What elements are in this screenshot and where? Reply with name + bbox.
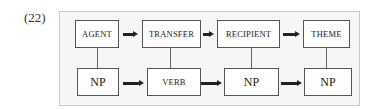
agent-label: AGENT: [82, 29, 112, 39]
arrow-right-icon: [201, 81, 222, 85]
theme-label: THEME: [311, 29, 341, 39]
transfer-label: TRANSFER: [149, 29, 194, 39]
np-box-1: NP: [77, 68, 119, 96]
np-box-3: NP: [304, 68, 352, 96]
connector-agent-np: [97, 48, 98, 68]
np-label-1: NP: [90, 75, 106, 90]
connector-recipient-np: [251, 48, 252, 68]
transfer-box: TRANSFER: [142, 20, 201, 48]
connector-theme-np: [326, 48, 327, 68]
arrow-right-icon: [123, 32, 138, 36]
arrow-right-icon: [123, 81, 144, 85]
arrow-right-icon: [283, 32, 300, 36]
arrow-right-icon: [203, 32, 214, 36]
agent-box: AGENT: [75, 20, 119, 48]
np-label-3: NP: [320, 75, 336, 90]
theme-box: THEME: [303, 20, 350, 48]
verb-label: VERB: [162, 77, 185, 87]
np-box-2: NP: [224, 68, 279, 96]
example-number: (22): [24, 10, 46, 26]
connector-transfer-verb: [170, 48, 171, 68]
arrow-right-icon: [281, 81, 302, 85]
verb-box: VERB: [147, 68, 201, 96]
np-label-2: NP: [244, 75, 260, 90]
recipient-label: RECIPIENT: [226, 29, 271, 39]
recipient-box: RECIPIENT: [217, 20, 280, 48]
